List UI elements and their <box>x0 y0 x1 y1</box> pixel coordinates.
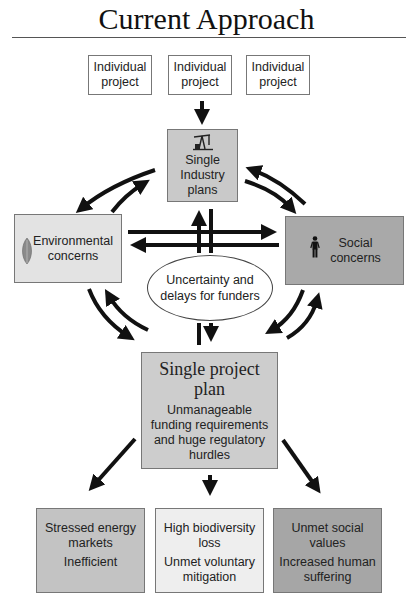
arrow-social-to-plan <box>272 290 303 330</box>
label: High biodiversity <box>164 521 256 536</box>
label: hurdles <box>151 448 268 463</box>
label: Unmet voluntary <box>164 555 255 570</box>
individual-project-box-1: Individual project <box>88 55 152 95</box>
label: Increased human <box>279 555 376 570</box>
individual-project-box-3: Individual project <box>246 55 310 95</box>
label: Individual <box>174 60 227 75</box>
social-concerns-box: Social concerns <box>285 216 404 285</box>
oil-pump-icon <box>192 133 214 151</box>
label: project <box>259 75 297 90</box>
label: Industry <box>180 168 224 183</box>
single-project-plan-box: Single project plan Unmanageable funding… <box>141 352 278 469</box>
label: Unmet social <box>291 521 363 536</box>
label: Unmanageable <box>151 403 268 418</box>
label: suffering <box>304 570 352 585</box>
label: loss <box>198 536 220 551</box>
arrow-plan-to-energy <box>94 439 135 485</box>
label: project <box>101 75 139 90</box>
single-industry-plans-box: Single Industry plans <box>167 129 238 202</box>
arrow-plan-to-social-outcome <box>283 440 316 487</box>
label: concerns <box>38 249 99 264</box>
label: project <box>181 75 219 90</box>
label: mitigation <box>183 570 237 585</box>
environmental-concerns-box: Environmental concerns <box>14 214 122 283</box>
label: plans <box>188 183 218 198</box>
label: delays for funders <box>160 288 259 304</box>
label: Individual <box>252 60 305 75</box>
label: Inefficient <box>64 555 117 570</box>
label: Stressed energy <box>45 521 136 536</box>
label: Single <box>185 153 220 168</box>
label: values <box>309 536 345 551</box>
outcome-energy-box: Stressed energy markets Inefficient <box>36 508 145 593</box>
arrow-env-to-industry <box>112 184 143 212</box>
individual-project-box-2: Individual project <box>168 55 232 95</box>
heading: Single project <box>159 359 259 379</box>
label: Social <box>316 236 372 251</box>
outcome-social-box: Unmet social values Increased human suff… <box>273 508 382 593</box>
heading: plan <box>194 379 225 399</box>
label: Individual <box>94 60 147 75</box>
plan-description: Unmanageable funding requirements and hu… <box>151 403 268 463</box>
outcome-biodiversity-box: High biodiversity loss Unmet voluntary m… <box>155 508 264 593</box>
label: funding requirements <box>151 418 268 433</box>
label: markets <box>68 536 112 551</box>
label: and huge regulatory <box>151 433 268 448</box>
person-icon <box>310 236 320 258</box>
leaf-icon <box>20 237 34 265</box>
uncertainty-ellipse: Uncertainty and delays for funders <box>147 255 273 321</box>
label: Uncertainty and <box>166 272 254 288</box>
arrow-plan-to-social <box>287 300 317 338</box>
label: Environmental <box>23 234 113 249</box>
